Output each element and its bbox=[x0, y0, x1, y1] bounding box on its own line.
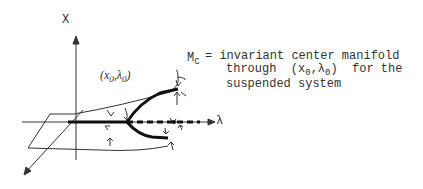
equilibrium-point bbox=[172, 120, 176, 124]
third-axis bbox=[26, 110, 83, 172]
manifold-bottom-edge bbox=[28, 114, 168, 151]
upper-pitchfork-branch bbox=[127, 89, 178, 122]
lambda-axis-arrowhead bbox=[208, 119, 215, 125]
manifold-definition-line-3: suspended system bbox=[226, 78, 341, 91]
bifurcation-diagram bbox=[0, 0, 423, 189]
x-axis-label: X bbox=[62, 14, 69, 27]
manifold-curl bbox=[176, 70, 178, 78]
lower-pitchfork-branch bbox=[127, 122, 168, 138]
lambda-axis-label: λ bbox=[216, 115, 223, 128]
manifold-symbol: MC bbox=[187, 52, 200, 69]
bifurcation-point-label: (x0,λ0) bbox=[100, 68, 131, 84]
x-axis-arrowhead bbox=[73, 36, 79, 44]
